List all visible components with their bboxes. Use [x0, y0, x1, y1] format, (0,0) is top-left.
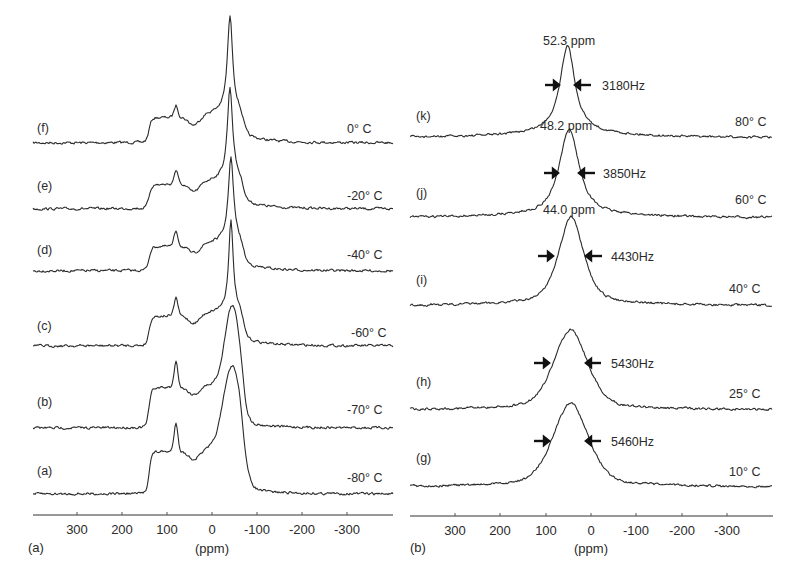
linewidth-arrows-i: [538, 252, 602, 260]
right-tick-0: 0: [587, 523, 594, 538]
linewidth-label-i: 4430Hz: [611, 250, 654, 264]
trace-c: [33, 220, 393, 348]
left-tick-minus300: -300: [334, 522, 360, 537]
linewidth-label-h: 5430Hz: [611, 357, 654, 371]
trace-label-e: (e): [37, 179, 52, 193]
temperature-label-a: -80° C: [347, 471, 383, 485]
temperature-label-h: 25° C: [729, 387, 760, 401]
trace-label-a: (a): [37, 464, 52, 478]
temperature-label-f: 0° C: [347, 122, 371, 136]
left-tick-200: 200: [111, 522, 133, 537]
right-panel-label: (b): [410, 540, 426, 555]
trace-f: [33, 16, 393, 145]
trace-label-f: (f): [37, 121, 49, 135]
trace-label-h: (h): [416, 375, 431, 389]
left-panel-label: (a): [28, 540, 44, 555]
right-tick-200: 200: [489, 523, 511, 538]
left-tick-minus100: -100: [244, 522, 270, 537]
trace-label-c: (c): [37, 319, 52, 333]
right-tick-minus100: -100: [623, 523, 649, 538]
right-tick-minus200: -200: [669, 523, 695, 538]
temperature-label-b: -70° C: [347, 403, 383, 417]
left-panel: (f) (e) (d) (c) (b) (a) 0° C -20° C -40°…: [28, 16, 393, 556]
temperature-label-e: -20° C: [347, 189, 383, 203]
temperature-label-j: 60° C: [735, 193, 766, 207]
left-tick-300: 300: [66, 522, 88, 537]
trace-e: [33, 87, 393, 210]
trace-label-b: (b): [37, 395, 52, 409]
linewidth-label-g: 5460Hz: [611, 435, 654, 449]
nmr-spectra-figure: (f) (e) (d) (c) (b) (a) 0° C -20° C -40°…: [0, 0, 808, 577]
left-tick-0: 0: [208, 522, 215, 537]
trace-d: [33, 157, 393, 272]
temperature-label-g: 10° C: [729, 465, 760, 479]
trace-a: [33, 366, 393, 496]
right-panel: (k) (j) (i) (h) (g) 80° C 60° C 40° C 25…: [410, 34, 773, 556]
linewidth-arrows-j: [544, 169, 595, 177]
temperature-label-k: 80° C: [735, 115, 766, 129]
trace-label-j: (j): [416, 186, 427, 200]
peak-position-i: 44.0 ppm: [543, 203, 595, 217]
linewidth-arrows-k: [545, 81, 591, 89]
left-tick-minus200: -200: [289, 522, 315, 537]
right-traces: [410, 46, 772, 488]
trace-b: [33, 305, 393, 429]
right-tick-100: 100: [535, 523, 557, 538]
left-tick-100: 100: [156, 522, 178, 537]
temperature-label-i: 40° C: [729, 282, 760, 296]
trace-label-g: (g): [416, 451, 431, 465]
trace-label-d: (d): [37, 243, 52, 257]
temperature-label-c: -60° C: [351, 326, 387, 340]
right-tick-300: 300: [444, 523, 466, 538]
peak-position-k: 52.3 ppm: [543, 34, 595, 48]
right-tick-minus300: -300: [714, 523, 740, 538]
linewidth-arrows-g: [534, 437, 601, 445]
peak-position-j: 48.2 ppm: [540, 119, 592, 133]
linewidth-label-k: 3180Hz: [602, 79, 645, 93]
trace-label-i: (i): [416, 273, 427, 287]
trace-h: [410, 329, 772, 411]
trace-label-k: (k): [416, 109, 431, 123]
temperature-label-d: -40° C: [347, 248, 383, 262]
right-x-axis-title: (ppm): [574, 541, 608, 556]
linewidth-label-j: 3850Hz: [603, 167, 646, 181]
left-traces: [33, 16, 393, 496]
linewidth-arrows-h: [534, 359, 601, 367]
left-x-axis-title: (ppm): [195, 541, 229, 556]
